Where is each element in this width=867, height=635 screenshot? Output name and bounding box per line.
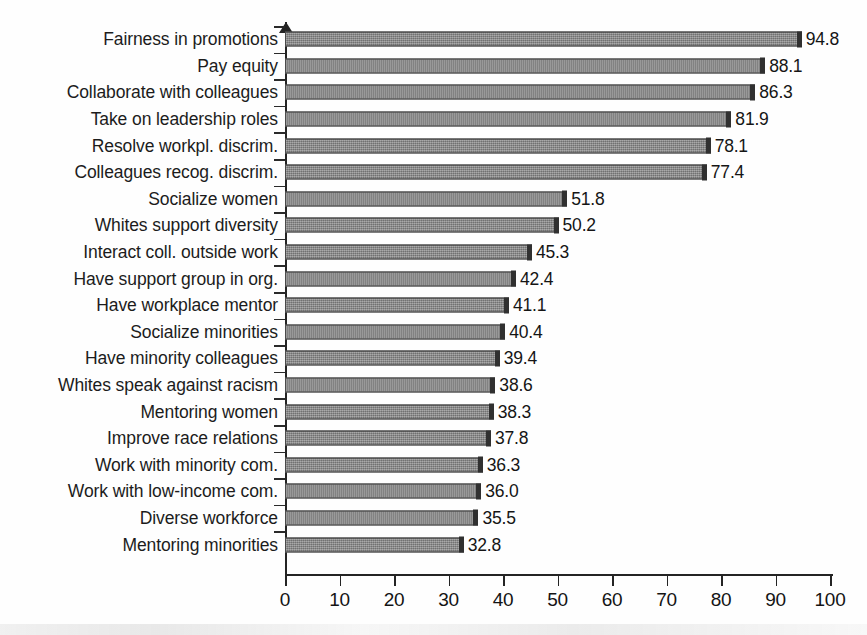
- bar-fill: [285, 457, 483, 472]
- bar: [285, 138, 711, 153]
- category-tick: [274, 452, 285, 454]
- bar: [285, 324, 505, 339]
- bar: [285, 431, 491, 446]
- category-label: Collaborate with colleagues: [67, 82, 278, 103]
- bar-fill: [285, 271, 516, 286]
- bar-row: Colleagues recog. discrim.77.4: [0, 159, 867, 186]
- category-tick: [274, 478, 285, 480]
- bar-value-label: 94.8: [806, 29, 839, 50]
- bar-fill: [285, 58, 765, 73]
- bar-fill: [285, 218, 559, 233]
- bar-row: Have minority colleagues39.4: [0, 345, 867, 372]
- category-label: Whites support diversity: [95, 215, 278, 236]
- value-tick-label: 40: [493, 589, 514, 611]
- category-tick: [274, 319, 285, 321]
- bar-row: Resolve workpl. discrim.78.1: [0, 132, 867, 159]
- bar-value-label: 38.3: [498, 401, 531, 422]
- category-label: Whites speak against racism: [58, 375, 278, 396]
- value-tick-label: 70: [656, 589, 677, 611]
- value-tick: [830, 574, 832, 586]
- bar-chart: Fairness in promotions94.8Pay equity88.1…: [0, 0, 867, 635]
- bar-row: Diverse workforce35.5: [0, 505, 867, 532]
- bar-row: Whites speak against racism38.6: [0, 372, 867, 399]
- category-tick: [274, 159, 285, 161]
- bar-row: Work with minority com.36.3: [0, 452, 867, 479]
- category-label: Improve race relations: [107, 428, 278, 449]
- category-label: Resolve workpl. discrim.: [92, 135, 278, 156]
- category-tick: [274, 239, 285, 241]
- bar: [285, 218, 559, 233]
- bar-fill: [285, 298, 509, 313]
- bar-row: Improve race relations37.8: [0, 425, 867, 452]
- category-label: Interact coll. outside work: [83, 242, 278, 263]
- category-label: Work with minority com.: [95, 454, 278, 475]
- bar: [285, 404, 494, 419]
- bar-fill: [285, 245, 532, 260]
- category-label: Mentoring women: [140, 401, 278, 422]
- category-tick: [274, 106, 285, 108]
- bar-fill: [285, 324, 505, 339]
- value-tick-label: 50: [547, 589, 568, 611]
- bar-value-label: 38.6: [499, 375, 532, 396]
- value-tick-label: 90: [765, 589, 786, 611]
- bar-fill: [285, 32, 802, 47]
- bar-fill: [285, 191, 567, 206]
- bar-fill: [285, 404, 494, 419]
- bar: [285, 457, 483, 472]
- bar-row: Have support group in org.42.4: [0, 265, 867, 292]
- category-tick: [274, 79, 285, 81]
- category-tick: [274, 425, 285, 427]
- bar-row: Mentoring women38.3: [0, 398, 867, 425]
- bar-value-label: 86.3: [759, 82, 792, 103]
- scan-artifact: [0, 624, 867, 635]
- bar-fill: [285, 537, 464, 552]
- bar: [285, 484, 481, 499]
- bar-value-label: 36.0: [485, 481, 518, 502]
- bar-value-label: 45.3: [536, 242, 569, 263]
- value-tick-label: 0: [280, 589, 290, 611]
- bar-value-label: 37.8: [495, 428, 528, 449]
- bar-fill: [285, 351, 500, 366]
- bar-row: Fairness in promotions94.8: [0, 26, 867, 53]
- category-tick: [274, 531, 285, 533]
- value-tick: [612, 574, 614, 586]
- category-label: Socialize women: [148, 188, 278, 209]
- bar-fill: [285, 510, 478, 525]
- bar-value-label: 51.8: [571, 188, 604, 209]
- bar: [285, 351, 500, 366]
- bar-row: Work with low-income com.36.0: [0, 478, 867, 505]
- bar-fill: [285, 165, 707, 180]
- plot-area: Fairness in promotions94.8Pay equity88.1…: [0, 0, 867, 635]
- category-label: Diverse workforce: [140, 507, 278, 528]
- value-tick: [394, 574, 396, 586]
- value-tick-label: 30: [438, 589, 459, 611]
- bar: [285, 537, 464, 552]
- bar: [285, 58, 765, 73]
- bar-fill: [285, 138, 711, 153]
- bar-fill: [285, 378, 495, 393]
- category-tick: [274, 398, 285, 400]
- category-label: Have minority colleagues: [85, 348, 278, 369]
- category-label: Fairness in promotions: [103, 29, 278, 50]
- bar-row: Collaborate with colleagues86.3: [0, 79, 867, 106]
- bar-row: Take on leadership roles81.9: [0, 106, 867, 133]
- category-label: Take on leadership roles: [91, 109, 278, 130]
- category-label: Mentoring minorities: [122, 534, 278, 555]
- bar-row: Interact coll. outside work45.3: [0, 239, 867, 266]
- bar-value-label: 39.4: [504, 348, 537, 369]
- bar-row: Socialize minorities40.4: [0, 319, 867, 346]
- value-tick: [449, 574, 451, 586]
- bar-rows: Fairness in promotions94.8Pay equity88.1…: [0, 26, 867, 558]
- bar-fill: [285, 431, 491, 446]
- bar-row: Pay equity88.1: [0, 53, 867, 80]
- bar: [285, 32, 802, 47]
- category-label: Work with low-income com.: [68, 481, 278, 502]
- bar-value-label: 36.3: [487, 454, 520, 475]
- category-label: Socialize minorities: [130, 321, 278, 342]
- bar: [285, 510, 478, 525]
- category-tick: [274, 292, 285, 294]
- bar-fill: [285, 112, 731, 127]
- bar-row: Mentoring minorities32.8: [0, 531, 867, 558]
- value-tick-label: 80: [711, 589, 732, 611]
- bar: [285, 378, 495, 393]
